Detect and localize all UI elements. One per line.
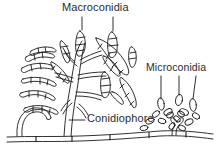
label-macroconidia: Macroconidia xyxy=(62,1,129,13)
label-microconidia: Microconidia xyxy=(146,61,206,73)
fungus-diagram: Macroconidia Microconidia Conidiophore xyxy=(0,0,220,157)
substrate-hypha xyxy=(7,131,213,142)
label-conidiophore: Conidiophore xyxy=(87,112,154,124)
diagram-canvas xyxy=(0,0,220,157)
macroconidia-cluster-mid xyxy=(51,56,136,108)
leader-line-microconidia-3 xyxy=(193,76,196,99)
left-hyphal-arch xyxy=(17,108,51,136)
macroconidia-free-left xyxy=(20,47,59,114)
macroconidia-cluster-upper xyxy=(60,31,136,75)
